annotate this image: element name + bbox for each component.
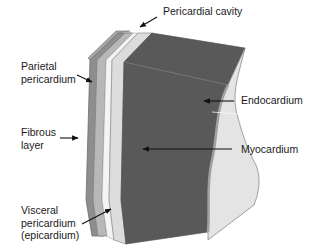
arrow-pericardial-cavity [140, 17, 157, 27]
label-myocardium: Myocardium [241, 143, 298, 156]
label-text: Myocardium [241, 143, 298, 156]
label-text: (epicardium) [21, 229, 79, 242]
label-text: Pericardial cavity [163, 5, 242, 18]
label-fibrous-layer: Fibrous layer [21, 126, 56, 151]
label-pericardial-cavity: Pericardial cavity [163, 5, 242, 18]
label-text: pericardium [21, 217, 79, 230]
label-endocardium: Endocardium [241, 94, 303, 107]
label-text: Fibrous [21, 126, 56, 139]
label-text: Visceral [21, 204, 79, 217]
label-text: Parietal [21, 60, 76, 73]
label-visceral-pericardium: Visceral pericardium (epicardium) [21, 204, 79, 242]
label-text: Endocardium [241, 94, 303, 107]
label-parietal-pericardium: Parietal pericardium [21, 60, 76, 85]
label-text: pericardium [21, 73, 76, 86]
label-text: layer [21, 139, 56, 152]
